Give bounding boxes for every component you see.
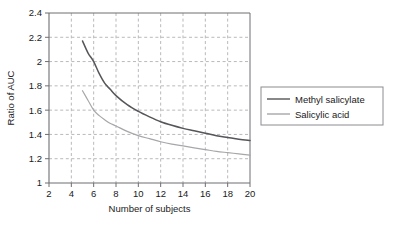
- line-chart: 2468101214161820 11.21.41.61.822.22.4 Nu…: [0, 0, 393, 232]
- chart-figure: 2468101214161820 11.21.41.61.822.22.4 Nu…: [0, 0, 393, 232]
- legend-item-label: Salicylic acid: [295, 109, 349, 120]
- x-tick-label: 2: [46, 188, 51, 199]
- y-tick-label: 1.2: [29, 153, 42, 164]
- x-tick-label: 6: [91, 188, 96, 199]
- y-tick-label: 2: [37, 56, 42, 67]
- x-tick-label: 8: [113, 188, 118, 199]
- x-axis-title: Number of subjects: [109, 203, 191, 214]
- y-tick-label: 1.6: [29, 105, 42, 116]
- chart-legend: Methyl salicylate Salicylic acid: [261, 87, 383, 125]
- x-tick-label: 10: [133, 188, 144, 199]
- y-tick-label: 1.8: [29, 80, 42, 91]
- x-tick-label: 20: [245, 188, 256, 199]
- y-tick-label: 1: [37, 177, 42, 188]
- y-tick-label: 2.2: [29, 32, 42, 43]
- x-tick-label: 4: [69, 188, 74, 199]
- legend-item-label: Methyl salicylate: [295, 94, 365, 105]
- x-tick-label: 12: [155, 188, 166, 199]
- x-tick-label: 18: [222, 188, 233, 199]
- y-tick-label: 1.4: [29, 129, 42, 140]
- y-axis-title: Ratio of AUC: [5, 70, 16, 125]
- y-tick-label: 2.4: [29, 7, 42, 18]
- x-tick-label: 14: [178, 188, 189, 199]
- x-tick-label: 16: [200, 188, 211, 199]
